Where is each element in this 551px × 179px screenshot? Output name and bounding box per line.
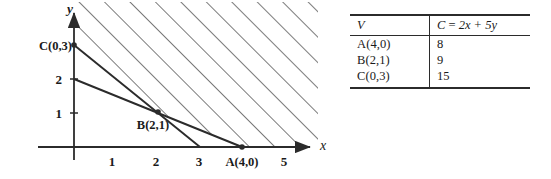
- table-body: A(4,0) 8 B(2,1) 9 C(0,3) 15: [350, 36, 530, 88]
- x-tick-label-5: 5: [281, 154, 288, 169]
- graph-panel: y x 1 2 3 5 2 1 C(0,3) B(2,1) A(4,0): [0, 0, 340, 179]
- objective-symbol: C: [437, 18, 445, 32]
- objective-expression: 2x + 5y: [459, 18, 497, 32]
- feasible-region-graph: y x 1 2 3 5 2 1 C(0,3) B(2,1) A(4,0): [0, 0, 340, 179]
- cell-vertex-a: A(4,0): [350, 36, 430, 53]
- x-tick-label-3: 3: [196, 154, 203, 169]
- figure-root: y x 1 2 3 5 2 1 C(0,3) B(2,1) A(4,0) V C: [0, 0, 551, 179]
- point-b-label: B(2,1): [137, 118, 169, 132]
- point-c-label: C(0,3): [39, 39, 72, 53]
- cell-vertex-b: B(2,1): [350, 53, 430, 69]
- table-header-row: V C = 2x + 5y: [350, 15, 530, 36]
- table-row: A(4,0) 8: [350, 36, 530, 53]
- y-tick-label-2: 2: [56, 72, 63, 87]
- table-panel: V C = 2x + 5y A(4,0) 8 B(2,1) 9: [340, 0, 551, 179]
- point-a-marker: [239, 144, 245, 150]
- point-c-marker: [71, 42, 77, 48]
- point-b-marker: [155, 109, 161, 115]
- objective-equals: =: [448, 18, 455, 32]
- column-header-vertex: V: [350, 15, 430, 36]
- cell-value-b: 9: [430, 53, 531, 69]
- x-axis-label: x: [319, 138, 327, 153]
- objective-value-table: V C = 2x + 5y A(4,0) 8 B(2,1) 9: [350, 14, 530, 89]
- cell-value-c: 15: [430, 69, 531, 88]
- y-tick-label-1: 1: [56, 106, 63, 121]
- cell-vertex-c: C(0,3): [350, 69, 430, 88]
- column-header-objective: C = 2x + 5y: [430, 15, 531, 36]
- cell-value-a: 8: [430, 36, 531, 53]
- y-axis-label: y: [65, 1, 74, 16]
- table-head: V C = 2x + 5y: [350, 15, 530, 36]
- table-row: C(0,3) 15: [350, 69, 530, 88]
- table-row: B(2,1) 9: [350, 53, 530, 69]
- point-a-label: A(4,0): [226, 155, 259, 169]
- x-tick-label-2: 2: [153, 154, 160, 169]
- x-tick-label-1: 1: [109, 154, 116, 169]
